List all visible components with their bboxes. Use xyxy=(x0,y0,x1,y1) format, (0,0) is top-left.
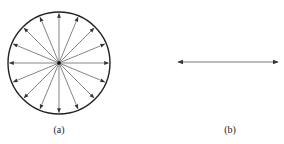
center-point xyxy=(57,61,61,65)
radial-arrow xyxy=(24,28,59,63)
radial-arrow xyxy=(59,63,94,98)
panel-b-label: (b) xyxy=(224,124,236,135)
circle-diagram xyxy=(8,12,110,114)
radial-arrow xyxy=(24,63,59,98)
radial-arrow xyxy=(59,28,94,63)
panel-a-label: (a) xyxy=(53,124,64,135)
figure-canvas xyxy=(0,0,284,144)
